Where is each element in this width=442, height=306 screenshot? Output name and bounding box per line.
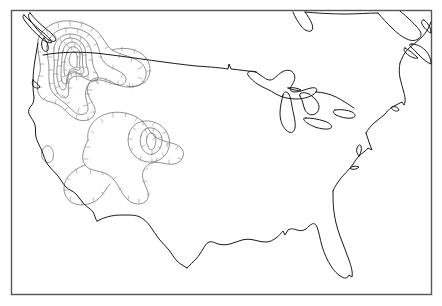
figure-background bbox=[0, 0, 442, 306]
contour-map-figure bbox=[0, 0, 442, 306]
figure-caption-partial bbox=[11, 298, 431, 306]
figure-root bbox=[0, 0, 442, 306]
